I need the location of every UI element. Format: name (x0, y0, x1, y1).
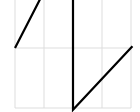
chart (0, 0, 140, 112)
series-line-sawtooth (15, 0, 132, 110)
series-group (15, 0, 132, 110)
